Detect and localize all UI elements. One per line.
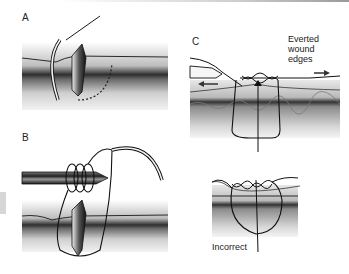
incorrect-annotation: Incorrect bbox=[212, 242, 247, 252]
panel-a-label: A bbox=[22, 12, 29, 23]
panel-c-label: C bbox=[192, 36, 199, 47]
panel-b-label: B bbox=[22, 132, 29, 143]
panel-d bbox=[212, 178, 300, 253]
everted-line-3: edges bbox=[288, 54, 319, 64]
panel-c bbox=[190, 58, 340, 152]
panel-b bbox=[22, 148, 168, 256]
everted-edges-annotation: Everted wound edges bbox=[288, 34, 319, 64]
everted-line-1: Everted bbox=[288, 34, 319, 44]
everted-line-2: wound bbox=[288, 44, 319, 54]
panel-a bbox=[22, 16, 168, 110]
